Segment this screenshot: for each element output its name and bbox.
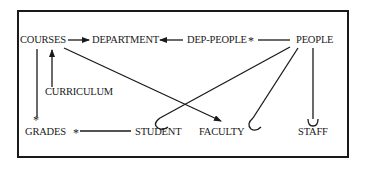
many-marker-grades-courses: *	[33, 114, 39, 126]
entity-curriculum: CURRICULUM	[45, 86, 113, 98]
entity-courses: COURSES	[20, 34, 66, 46]
entity-people: PEOPLE	[296, 34, 333, 46]
people-to-faculty-line	[253, 48, 298, 118]
many-marker-dep-people: *	[248, 35, 254, 47]
entity-staff: STAFF	[298, 126, 328, 138]
entity-grades: GRADES	[25, 126, 66, 138]
entity-faculty: FACULTY	[199, 126, 244, 138]
schema-diagram: COURSES DEPARTMENT DEP-PEOPLE * PEOPLE C…	[0, 0, 367, 169]
many-marker-grades-student: *	[73, 127, 79, 139]
entity-student: STUDENT	[135, 126, 181, 138]
relationship-lines	[0, 0, 367, 169]
faculty-subtype-hook	[249, 118, 261, 130]
people-to-student-line	[160, 47, 290, 118]
entity-department: DEPARTMENT	[92, 34, 159, 46]
staff-subtype-hook	[308, 119, 318, 126]
courses-to-faculty-arrow	[64, 48, 221, 121]
entity-dep-people: DEP-PEOPLE	[187, 34, 247, 46]
